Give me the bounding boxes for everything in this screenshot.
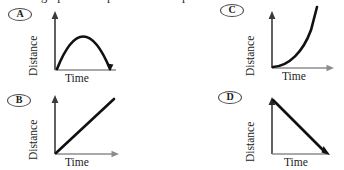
increasing-line-curve bbox=[56, 99, 114, 153]
option-a-letter: A bbox=[16, 9, 23, 19]
x-axis-arrowhead bbox=[327, 65, 335, 71]
option-d-letter: D bbox=[226, 92, 233, 102]
question-stem: Which graph best represents the trip? bbox=[4, 0, 294, 3]
graph-b-x-label: Time bbox=[65, 156, 89, 168]
graph-d-y-label: Distance bbox=[244, 122, 256, 162]
graph-a-x-label: Time bbox=[65, 72, 89, 84]
graph-b-svg bbox=[38, 92, 124, 158]
graph-c-y-label: Distance bbox=[244, 36, 256, 76]
x-axis-arrowhead bbox=[112, 151, 120, 157]
option-d-label-oval[interactable]: D bbox=[218, 91, 242, 104]
graph-c-x-label: Time bbox=[282, 70, 306, 82]
decreasing-line-curve bbox=[273, 100, 325, 152]
question-page: Which graph best represents the trip? A … bbox=[0, 0, 344, 170]
y-axis-arrowhead bbox=[52, 11, 59, 19]
option-b-label-oval[interactable]: B bbox=[7, 94, 31, 107]
graph-c-svg bbox=[255, 6, 341, 72]
option-a-label-oval[interactable]: A bbox=[8, 8, 32, 21]
option-c-letter: C bbox=[228, 5, 235, 15]
y-axis-arrowhead bbox=[269, 11, 276, 19]
option-b-letter: B bbox=[16, 95, 23, 105]
parabola-curve bbox=[57, 37, 110, 70]
graph-a-svg bbox=[38, 8, 124, 74]
graph-a: Distance Time bbox=[38, 8, 124, 74]
exponential-curve bbox=[273, 7, 317, 67]
graph-d-svg bbox=[255, 92, 341, 158]
graph-b: Distance Time bbox=[38, 92, 124, 158]
y-axis-arrowhead bbox=[52, 95, 59, 103]
graph-d: Distance Time bbox=[255, 92, 341, 158]
graph-c: Distance Time bbox=[255, 6, 341, 72]
graph-d-x-label: Time bbox=[284, 156, 308, 168]
graph-b-y-label: Distance bbox=[27, 120, 39, 160]
option-c-label-oval[interactable]: C bbox=[220, 4, 244, 17]
graph-a-y-label: Distance bbox=[27, 36, 39, 76]
